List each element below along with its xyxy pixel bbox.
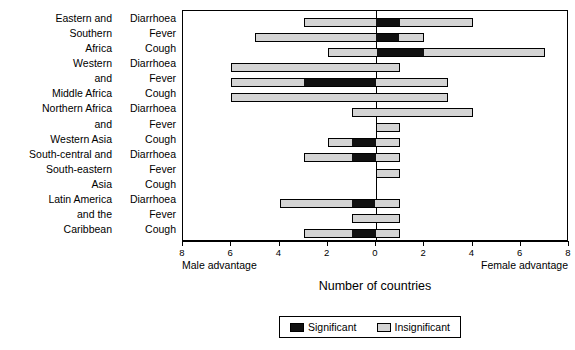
condition-label: Diarrhoea: [114, 147, 176, 162]
legend-item-significant: Significant: [290, 321, 356, 333]
condition-label: Cough: [114, 222, 176, 237]
condition-label: Diarrhoea: [114, 56, 176, 71]
bar-segment-insignificant: [256, 34, 375, 41]
x-axis-tick-label: 4: [462, 247, 482, 258]
condition-label: Fever: [114, 71, 176, 86]
chart-legend: Significant Insignificant: [279, 316, 461, 338]
legend-item-insignificant: Insignificant: [377, 321, 450, 333]
bar: [328, 48, 545, 57]
bar-segment-significant: [376, 34, 400, 41]
region-label: and: [0, 71, 112, 86]
bar-segment-insignificant: [232, 94, 447, 101]
bar-segment-insignificant: [399, 34, 423, 41]
bar: [304, 229, 401, 238]
region-label: South-central and: [0, 147, 112, 162]
x-axis-title: Number of countries: [182, 279, 568, 293]
bar-segment-insignificant: [232, 79, 304, 86]
condition-label: Cough: [114, 86, 176, 101]
region-label-column: Eastern andSouthernAfricaWesternandMiddl…: [0, 11, 112, 237]
bar-segment-insignificant: [329, 49, 377, 56]
bar-segment-insignificant: [305, 19, 377, 26]
bar: [255, 33, 424, 42]
bar-segment-significant: [377, 49, 425, 56]
bar: [280, 199, 401, 208]
x-axis-tick: [568, 241, 569, 246]
x-axis-tick: [423, 241, 424, 246]
bar-segment-insignificant: [375, 200, 399, 207]
bar-segment-insignificant: [377, 170, 399, 177]
legend-label-significant: Significant: [308, 321, 356, 333]
condition-label-column: DiarrhoeaFeverCoughDiarrhoeaFeverCoughDi…: [114, 11, 176, 237]
x-axis-tick-label: 6: [220, 247, 240, 258]
plot-area: [182, 10, 568, 241]
region-label: South-eastern: [0, 162, 112, 177]
bar: [231, 63, 400, 72]
x-axis-tick: [230, 241, 231, 246]
region-label: Northern Africa: [0, 102, 112, 117]
x-axis-tick-label: 4: [269, 247, 289, 258]
region-label: Asia: [0, 177, 112, 192]
x-axis-tick: [375, 241, 376, 246]
condition-label: Diarrhoea: [114, 102, 176, 117]
bar-segment-insignificant: [376, 79, 448, 86]
x-axis-tick: [279, 241, 280, 246]
x-axis-tick-label: 2: [413, 247, 433, 258]
bar: [376, 169, 400, 178]
x-axis-tick-label: 6: [510, 247, 530, 258]
region-label: Southern: [0, 26, 112, 41]
bar: [352, 108, 473, 117]
bar: [231, 93, 448, 102]
bar-segment-significant: [304, 79, 376, 86]
bar: [304, 153, 401, 162]
x-axis-tick-label: 8: [172, 247, 192, 258]
bar-segment-significant: [352, 200, 376, 207]
x-axis-tick: [327, 241, 328, 246]
bar-segment-insignificant: [305, 154, 352, 161]
bar-segment-insignificant: [377, 124, 399, 131]
condition-label: Cough: [114, 41, 176, 56]
female-advantage-label: Female advantage: [448, 259, 568, 271]
x-axis-tick: [182, 241, 183, 246]
condition-label: Fever: [114, 26, 176, 41]
condition-label: Cough: [114, 177, 176, 192]
region-label: Africa: [0, 41, 112, 56]
condition-label: Fever: [114, 162, 176, 177]
bar-segment-significant: [352, 139, 375, 146]
condition-label: Diarrhoea: [114, 11, 176, 26]
bar: [231, 78, 448, 87]
bar-segment-insignificant: [376, 139, 399, 146]
bar: [376, 123, 400, 132]
x-axis-tick-label: 2: [317, 247, 337, 258]
bar-segment-insignificant: [376, 230, 400, 237]
condition-label: Cough: [114, 132, 176, 147]
legend-swatch-significant: [290, 323, 304, 332]
condition-label: Fever: [114, 207, 176, 222]
region-label: and the: [0, 207, 112, 222]
bar-segment-significant: [376, 19, 400, 26]
condition-label: Diarrhoea: [114, 192, 176, 207]
bar: [352, 214, 400, 223]
bar-segment-insignificant: [329, 139, 352, 146]
bar: [304, 18, 473, 27]
bar-segment-insignificant: [424, 49, 544, 56]
x-axis-tick: [472, 241, 473, 246]
chart-container: Eastern andSouthernAfricaWesternandMiddl…: [0, 0, 575, 350]
region-label: Eastern and: [0, 11, 112, 26]
region-label: Middle Africa: [0, 86, 112, 101]
bar-segment-insignificant: [232, 64, 399, 71]
legend-label-insignificant: Insignificant: [395, 321, 450, 333]
bar: [328, 138, 400, 147]
x-axis-tick-label: 8: [558, 247, 575, 258]
region-label: and: [0, 117, 112, 132]
legend-swatch-insignificant: [377, 323, 391, 332]
region-label: Latin America: [0, 192, 112, 207]
male-advantage-label: Male advantage: [182, 259, 257, 271]
bar-segment-significant: [352, 154, 376, 161]
bar-segment-insignificant: [376, 154, 400, 161]
condition-label: Fever: [114, 117, 176, 132]
bar-segment-insignificant: [281, 200, 352, 207]
bar-segment-insignificant: [353, 215, 399, 222]
bar-segment-insignificant: [353, 109, 472, 116]
region-label: Western: [0, 56, 112, 71]
region-label: Western Asia: [0, 132, 112, 147]
